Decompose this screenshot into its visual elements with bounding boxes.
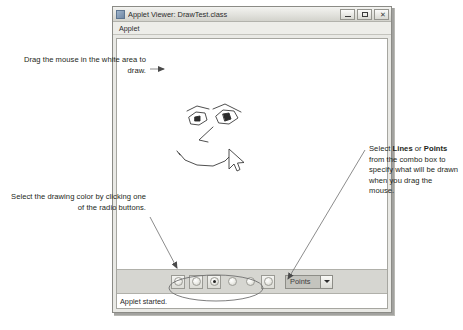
callout-combo-mid: or xyxy=(413,144,424,153)
status-text: Applet started. xyxy=(120,297,167,306)
menu-item-applet[interactable]: Applet xyxy=(117,24,141,33)
close-button[interactable]: ✕ xyxy=(374,9,389,20)
combo-selected-value: Points xyxy=(286,276,320,288)
color-radio-6[interactable] xyxy=(261,275,275,289)
window-controls: ✕ xyxy=(340,9,389,20)
window-title: Applet Viewer: DrawTest.class xyxy=(128,10,340,19)
statusbar: Applet started. xyxy=(117,293,387,308)
menubar: Applet xyxy=(113,22,391,35)
color-radio-5[interactable] xyxy=(243,275,257,289)
chevron-down-icon[interactable] xyxy=(320,276,332,288)
window-titlebar[interactable]: Applet Viewer: DrawTest.class ✕ xyxy=(113,7,391,22)
maximize-button[interactable] xyxy=(357,9,372,20)
maximize-icon xyxy=(362,12,368,17)
callout-combo-points: Points xyxy=(424,144,448,153)
shape-combo-box[interactable]: Points xyxy=(285,275,333,289)
callout-drag-to-draw: Drag the mouse in the white area to draw… xyxy=(18,55,146,76)
color-radio-2[interactable] xyxy=(189,275,203,289)
radio-knob-icon xyxy=(210,277,219,286)
radio-knob-icon xyxy=(192,277,201,286)
callout-combo-pre: Select xyxy=(369,144,393,153)
drawing-strokes xyxy=(117,39,387,269)
radio-knob-icon xyxy=(174,277,183,286)
radio-knob-icon xyxy=(264,277,273,286)
applet-viewer-icon xyxy=(116,10,125,19)
applet-body: Points Applet started. xyxy=(116,38,388,309)
radio-knob-icon xyxy=(228,277,237,286)
color-radio-4[interactable] xyxy=(225,275,239,289)
minimize-icon xyxy=(345,16,351,17)
color-radio-3[interactable] xyxy=(207,275,221,289)
color-radio-1[interactable] xyxy=(171,275,185,289)
callout-combo-post: from the combo box to specify what will … xyxy=(369,155,458,196)
callout-combo-box: Select Lines or Points from the combo bo… xyxy=(369,144,459,197)
minimize-button[interactable] xyxy=(340,9,355,20)
control-panel: Points xyxy=(117,269,387,293)
callout-select-color: Select the drawing color by clicking one… xyxy=(8,192,146,213)
radio-knob-icon xyxy=(246,277,255,286)
mouse-pointer-icon xyxy=(229,149,244,171)
drawing-canvas[interactable] xyxy=(117,39,387,269)
callout-combo-lines: Lines xyxy=(393,144,413,153)
applet-viewer-window: Applet Viewer: DrawTest.class ✕ Applet xyxy=(112,6,392,313)
close-icon: ✕ xyxy=(379,12,386,18)
